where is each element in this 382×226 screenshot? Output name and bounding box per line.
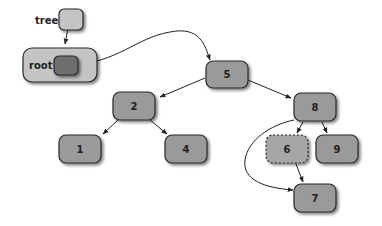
root-holder: root xyxy=(23,48,97,82)
node-2: 2 xyxy=(113,92,155,120)
node-7: 7 xyxy=(294,184,336,212)
node-5: 5 xyxy=(206,61,248,88)
node-4: 4 xyxy=(165,135,207,163)
node-1-label: 1 xyxy=(77,144,84,155)
edge-5-2 xyxy=(160,78,205,97)
edge-2-1 xyxy=(103,120,118,134)
node-8: 8 xyxy=(294,93,336,121)
tree-diagram: tree root 5 2 8 1 4 6 9 7 xyxy=(0,0,382,226)
node-9: 9 xyxy=(316,135,358,163)
root-pointer-box xyxy=(54,56,78,75)
node-9-label: 9 xyxy=(334,144,341,155)
edge-5-8 xyxy=(248,80,291,98)
node-7-label: 7 xyxy=(312,193,319,204)
edges xyxy=(65,18,327,190)
tree-pointer: tree xyxy=(35,9,83,30)
tree-label: tree xyxy=(35,15,58,26)
node-8-label: 8 xyxy=(312,102,319,113)
node-4-label: 4 xyxy=(183,144,190,155)
edge-6-7 xyxy=(296,164,303,182)
root-label: root xyxy=(29,60,53,71)
edge-8-9 xyxy=(322,122,327,133)
node-2-label: 2 xyxy=(131,101,138,112)
node-1: 1 xyxy=(59,135,101,163)
node-5-label: 5 xyxy=(224,69,231,80)
edge-8-6 xyxy=(297,122,303,133)
tree-pointer-box xyxy=(59,9,83,30)
edge-2-4 xyxy=(150,120,167,134)
node-6: 6 xyxy=(266,135,308,163)
node-6-label: 6 xyxy=(284,144,291,155)
